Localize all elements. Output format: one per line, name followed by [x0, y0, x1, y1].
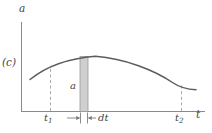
acceleration-vs-time-figure: (c) a t t1 t2 dt a	[0, 0, 212, 133]
acceleration-curve	[30, 56, 196, 90]
strip-height-label: a	[70, 81, 76, 91]
x-axis-label: t	[196, 109, 200, 120]
t2-tick-label: t2	[175, 113, 184, 125]
panel-label: (c)	[2, 57, 16, 68]
dt-right-arrow	[88, 113, 97, 124]
t1-subscript: 1	[48, 116, 53, 125]
t1-tick-label: t1	[44, 113, 53, 125]
dt-dimension-label: dt	[98, 113, 108, 123]
dt-left-arrow	[67, 113, 81, 124]
y-axis-label: a	[19, 3, 25, 14]
dt-strip-rect	[80, 57, 88, 112]
t2-subscript: 2	[179, 116, 184, 125]
